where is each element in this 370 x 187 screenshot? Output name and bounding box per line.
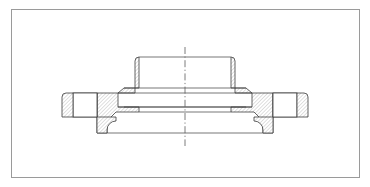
technical-drawing-canvas: [0, 0, 370, 187]
bolt-hole-left: [73, 93, 97, 117]
rim-right-outer-tip: [297, 93, 308, 117]
flange-section-svg: [0, 0, 370, 187]
bolt-hole-right: [273, 93, 297, 117]
rim-left-outer-tip: [62, 93, 73, 117]
